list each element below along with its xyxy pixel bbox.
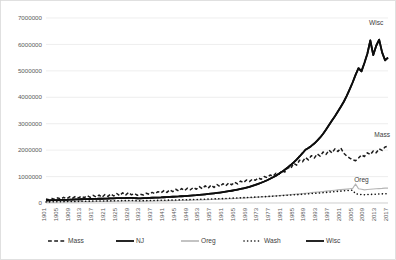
series-line-wash (46, 190, 388, 202)
x-tick-label: 1953 (194, 207, 200, 221)
x-tick-label: 1969 (242, 207, 248, 221)
legend-label-oreg[interactable]: Oreg (201, 237, 216, 245)
x-tick-label: 1949 (183, 207, 189, 221)
y-tick-label: 0 (39, 199, 43, 206)
y-tick-label: 3000000 (18, 120, 43, 127)
x-tick-label: 1985 (289, 207, 295, 221)
x-tick-label: 1933 (135, 207, 141, 221)
x-tick-label: 2005 (348, 207, 354, 221)
series-lines (46, 40, 388, 203)
x-tick-label: 1961 (218, 207, 224, 221)
line-chart: 7000000600000050000004000000300000020000… (0, 0, 396, 260)
x-tick-label: 1957 (206, 207, 212, 221)
series-annotations: WiscMassOreg (354, 19, 391, 185)
chart-container: 7000000600000050000004000000300000020000… (0, 0, 396, 260)
x-tick-label: 1913 (76, 207, 82, 221)
annotation-oreg: Oreg (354, 176, 369, 184)
x-tick-label: 2001 (336, 207, 342, 221)
x-tick-label: 1921 (100, 207, 106, 221)
x-tick-label: 2013 (371, 207, 377, 221)
x-tick-label: 1997 (324, 207, 330, 221)
annotation-mass: Mass (374, 131, 390, 138)
y-tick-label: 1000000 (18, 173, 43, 180)
legend-label-wash[interactable]: Wash (264, 237, 281, 244)
legend-label-mass[interactable]: Mass (68, 237, 84, 244)
x-tick-label: 1965 (230, 207, 236, 221)
x-tick-label: 1925 (112, 207, 118, 221)
y-tick-label: 4000000 (18, 93, 43, 100)
x-tick-label: 2017 (383, 207, 389, 221)
x-tick-label: 1981 (277, 207, 283, 221)
gridlines (46, 18, 388, 203)
x-tick-label: 1945 (171, 207, 177, 221)
x-tick-label: 1993 (312, 207, 318, 221)
y-tick-label: 6000000 (18, 41, 43, 48)
x-tick-label: 1917 (88, 207, 94, 221)
annotation-wisc: Wisc (369, 19, 384, 26)
x-axis-labels: 1901190519091913191719211925192919331937… (41, 207, 389, 221)
y-tick-label: 5000000 (18, 67, 43, 74)
x-tick-label: 1905 (53, 207, 59, 221)
x-tick-label: 1977 (265, 207, 271, 221)
x-tick-label: 1937 (147, 207, 153, 221)
x-tick-label: 2009 (359, 207, 365, 221)
y-tick-label: 7000000 (18, 14, 43, 21)
x-tick-label: 1941 (159, 207, 165, 221)
x-tick-label: 1909 (65, 207, 71, 221)
legend-label-nj[interactable]: NJ (136, 237, 144, 244)
y-axis-labels: 7000000600000050000004000000300000020000… (18, 14, 43, 206)
x-tick-label: 1901 (41, 207, 47, 221)
x-tick-label: 1929 (124, 207, 130, 221)
chart-legend: MassNJOregWashWisc (48, 237, 341, 245)
x-tick-label: 1989 (300, 207, 306, 221)
x-tick-label: 1973 (253, 207, 259, 221)
y-tick-label: 2000000 (18, 146, 43, 153)
legend-label-wisc[interactable]: Wisc (326, 237, 341, 244)
